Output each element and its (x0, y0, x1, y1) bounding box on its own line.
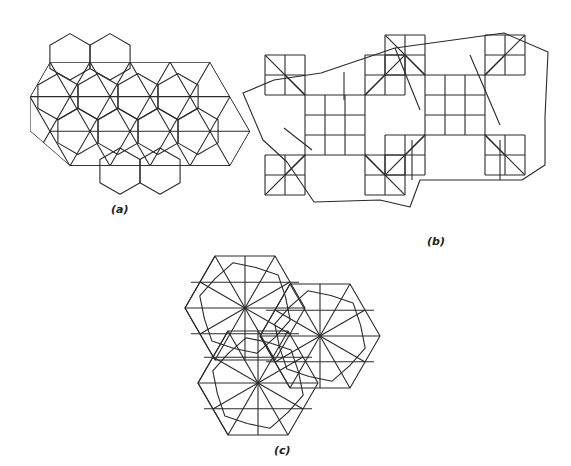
panel-a-diagram (0, 62, 390, 166)
figure-canvas (0, 0, 571, 466)
panel-c-diagram (185, 256, 380, 435)
caption-b: (b) (427, 235, 445, 248)
panel-a-hexagons (38, 34, 218, 195)
panel-b-diagram (243, 33, 548, 207)
caption-c: (c) (274, 444, 291, 457)
caption-a: (a) (111, 203, 128, 216)
